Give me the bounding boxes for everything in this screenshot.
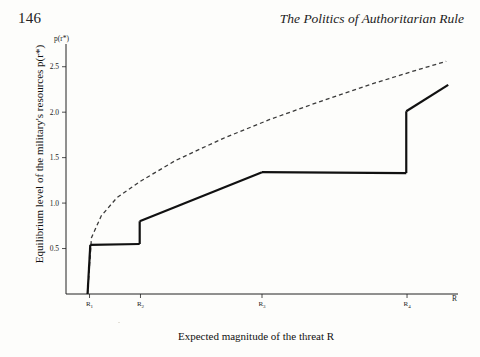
x-tick-label: R1 [86, 300, 94, 309]
x-tick-label: R2 [137, 300, 145, 309]
y-tick-label: 2.0 [50, 108, 60, 117]
series-solid-equilibrium [88, 85, 449, 294]
y-axis-ticks: 0.51.01.52.02.5 [50, 62, 66, 253]
y-tick-label: 1.0 [50, 199, 60, 208]
series-dashed-benchmark [88, 61, 447, 294]
scan-speckle [118, 322, 120, 323]
page-number: 146 [18, 10, 41, 27]
x-axis-ticks: R1R2R3R4 [86, 294, 411, 309]
chart-plot: 0.51.01.52.02.5 R1R2R3R4 [6, 36, 474, 336]
solid-curve-segment [88, 245, 91, 294]
x-tick-label: R4 [403, 300, 411, 309]
page: 146 The Politics of Authoritarian Rule p… [0, 0, 480, 357]
dashed-curve [88, 61, 447, 294]
solid-curve-segment [262, 172, 406, 173]
y-tick-label: 1.5 [50, 153, 60, 162]
x-tick-label: R3 [258, 300, 266, 309]
scan-speckle [306, 336, 308, 338]
y-tick-label: 2.5 [50, 62, 60, 71]
y-tick-label: 0.5 [50, 244, 60, 253]
book-title: The Politics of Authoritarian Rule [280, 11, 464, 27]
solid-curve-segment [406, 85, 448, 111]
solid-curve-segment [90, 244, 139, 245]
figure: p(r*) R Equilibrium level of the militar… [6, 36, 474, 352]
running-head: 146 The Politics of Authoritarian Rule [0, 10, 480, 32]
solid-curve-segment [140, 172, 262, 221]
